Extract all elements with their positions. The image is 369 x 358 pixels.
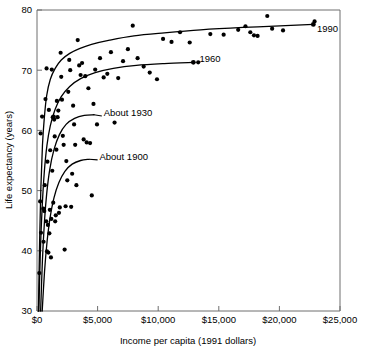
- scatter-point: [65, 178, 69, 182]
- scatter-point: [41, 240, 45, 244]
- scatter-point: [105, 72, 109, 76]
- scatter-point: [60, 98, 64, 102]
- scatter-point: [236, 28, 240, 32]
- scatter-point: [63, 248, 67, 252]
- scatter-point: [74, 183, 78, 187]
- scatter-point: [161, 37, 165, 41]
- curve-label-about-1900: About 1900: [99, 151, 148, 162]
- scatter-point: [93, 68, 97, 72]
- scatter-point: [44, 219, 48, 223]
- scatter-point: [61, 134, 65, 138]
- scatter-point: [136, 56, 140, 60]
- scatter-point: [50, 68, 54, 72]
- scatter-point: [91, 102, 95, 106]
- scatter-point: [86, 86, 90, 90]
- scatter-point: [39, 231, 43, 235]
- scatter-point: [265, 14, 269, 18]
- scatter-point: [83, 74, 87, 78]
- y-tick-label: 50: [21, 185, 32, 196]
- scatter-point: [59, 51, 63, 55]
- scatter-point: [56, 115, 60, 119]
- scatter-point: [109, 50, 113, 54]
- y-tick-label: 40: [21, 245, 32, 256]
- scatter-point: [68, 68, 72, 72]
- y-tick-label: 70: [21, 65, 32, 76]
- x-tick-label: $5,000: [83, 314, 112, 325]
- scatter-point: [208, 32, 212, 36]
- curve-label-1990: 1990: [317, 23, 338, 34]
- scatter-point: [155, 77, 159, 81]
- scatter-point: [121, 59, 125, 63]
- scatter-point: [58, 205, 62, 209]
- scatter-point: [43, 97, 47, 101]
- y-axis-title: Life expectancy (years): [3, 111, 14, 209]
- curve-endpoint-marker: [311, 22, 316, 27]
- scatter-point: [80, 61, 84, 65]
- scatter-point: [49, 255, 53, 259]
- chart-background: [0, 0, 369, 358]
- scatter-point: [44, 66, 48, 70]
- scatter-plot-svg: $0$5,000$10,000$15,000$20,000$25,000 304…: [0, 0, 369, 358]
- scatter-point: [48, 208, 52, 212]
- scatter-point: [47, 231, 51, 235]
- scatter-point: [48, 148, 52, 152]
- scatter-point: [51, 201, 55, 205]
- scatter-point: [169, 40, 173, 44]
- curve-label-1960: 1960: [199, 53, 220, 64]
- scatter-point: [54, 148, 58, 152]
- y-tick-label: 60: [21, 125, 32, 136]
- scatter-point: [252, 33, 256, 37]
- scatter-point: [45, 160, 49, 164]
- x-tick-label: $10,000: [141, 314, 175, 325]
- scatter-point: [52, 117, 56, 121]
- scatter-point: [40, 114, 44, 118]
- scatter-point: [248, 30, 252, 34]
- scatter-point: [39, 131, 43, 135]
- scatter-point: [281, 28, 285, 32]
- annotation-leader-line: [89, 159, 97, 160]
- scatter-point: [53, 134, 57, 138]
- scatter-point: [42, 209, 46, 213]
- x-axis-title: Income per capita (1991 dollars): [120, 335, 256, 346]
- scatter-point: [43, 183, 47, 187]
- scatter-point: [55, 99, 59, 103]
- scatter-point: [71, 104, 75, 108]
- scatter-point: [57, 211, 61, 215]
- scatter-point: [79, 73, 83, 77]
- curve-label-about-1930: About 1930: [104, 107, 153, 118]
- scatter-point: [116, 76, 120, 80]
- y-tick-label: 80: [21, 4, 32, 15]
- scatter-point: [82, 137, 86, 141]
- scatter-point: [62, 143, 66, 147]
- scatter-point: [49, 217, 53, 221]
- scatter-point: [126, 47, 130, 51]
- scatter-point: [188, 40, 192, 44]
- scatter-point: [56, 108, 60, 112]
- scatter-point: [50, 169, 54, 173]
- scatter-point: [270, 27, 274, 31]
- scatter-point: [46, 223, 50, 227]
- curve-endpoint-marker: [191, 60, 196, 65]
- scatter-point: [148, 71, 152, 75]
- scatter-point: [66, 90, 70, 94]
- scatter-point: [222, 33, 226, 37]
- scatter-point: [72, 122, 76, 126]
- x-tick-label: $25,000: [323, 314, 357, 325]
- chart-figure: $0$5,000$10,000$15,000$20,000$25,000 304…: [0, 0, 369, 358]
- scatter-point: [37, 271, 41, 275]
- scatter-point: [47, 108, 51, 112]
- scatter-point: [67, 58, 71, 62]
- scatter-point: [70, 172, 74, 176]
- scatter-point: [255, 34, 259, 38]
- x-tick-label: $20,000: [262, 314, 296, 325]
- scatter-point: [76, 38, 80, 42]
- x-tick-label: $0: [32, 314, 43, 325]
- scatter-point: [98, 56, 102, 60]
- scatter-point: [95, 122, 99, 126]
- scatter-point: [243, 24, 247, 28]
- y-tick-label: 30: [21, 305, 32, 316]
- scatter-point: [178, 30, 182, 34]
- scatter-point: [38, 199, 42, 203]
- scatter-point: [90, 193, 94, 197]
- scatter-point: [73, 143, 77, 147]
